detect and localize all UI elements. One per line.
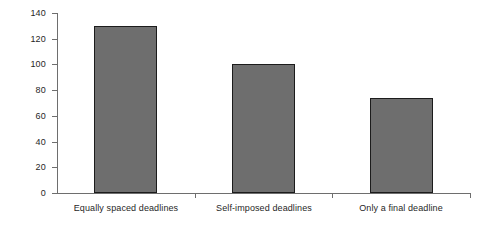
bar[interactable] [232, 64, 295, 193]
bar[interactable] [370, 98, 433, 193]
x-tick-mark [470, 193, 471, 198]
y-axis-line [57, 13, 58, 193]
y-tick-mark [52, 90, 57, 91]
x-axis-line [57, 193, 470, 194]
y-tick-label: 60 [14, 112, 46, 121]
y-tick-label: 20 [14, 163, 46, 172]
x-tick-mark [332, 193, 333, 198]
x-axis-category-label: Equally spaced deadlines [57, 203, 195, 214]
y-tick-label: 140 [14, 9, 46, 18]
y-tick-mark [52, 39, 57, 40]
y-tick-mark [52, 167, 57, 168]
x-axis-category-label: Self-imposed deadlines [195, 203, 333, 214]
bar[interactable] [94, 26, 157, 193]
y-tick-label: 80 [14, 86, 46, 95]
bar-chart: 140120100806040200 Equally spaced deadli… [0, 0, 488, 225]
y-tick-mark [52, 13, 57, 14]
y-tick-mark [52, 142, 57, 143]
x-axis-category-label: Only a final deadline [332, 203, 470, 214]
y-tick-label: 0 [14, 189, 46, 198]
x-tick-mark [195, 193, 196, 198]
y-tick-mark [52, 193, 57, 194]
y-tick-label: 120 [14, 35, 46, 44]
y-tick-label: 40 [14, 138, 46, 147]
y-tick-mark [52, 116, 57, 117]
y-tick-mark [52, 64, 57, 65]
y-tick-label: 100 [14, 60, 46, 69]
